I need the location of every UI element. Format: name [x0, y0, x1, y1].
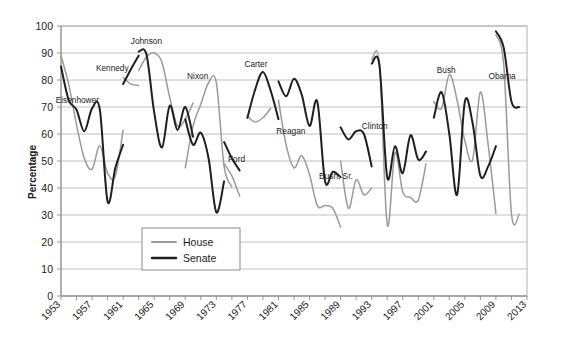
- series-line-house: [278, 100, 340, 227]
- y-tick-label: 60: [41, 128, 53, 140]
- chart-root: Percentage 01020304050607080901001953195…: [0, 0, 561, 343]
- series-line-house: [496, 35, 519, 225]
- series-line-senate: [139, 49, 193, 147]
- president-annotation: Johnson: [131, 36, 163, 46]
- series-line-senate: [61, 67, 123, 204]
- y-tick-label: 30: [41, 209, 53, 221]
- president-annotation: Eisenhower: [56, 95, 100, 105]
- x-tick-label: 1985: [287, 298, 311, 322]
- legend-label-senate: Senate: [183, 252, 216, 264]
- y-tick-label: 40: [41, 182, 53, 194]
- x-tick-label: 1965: [132, 298, 156, 322]
- x-tick-label: 1993: [350, 298, 374, 322]
- series-line-house: [139, 53, 193, 127]
- x-tick-label: 1961: [101, 298, 125, 322]
- x-tick-label: 2001: [412, 298, 436, 322]
- y-tick-label: 20: [41, 236, 53, 248]
- series-line-senate: [341, 127, 372, 166]
- y-tick-label: 70: [41, 101, 53, 113]
- series-line-house: [247, 108, 270, 122]
- x-tick-label: 1969: [163, 298, 187, 322]
- president-annotation: Bush: [437, 65, 456, 75]
- president-annotation: Reagan: [276, 126, 305, 136]
- chart-canvas: 0102030405060708090100195319571961196519…: [0, 0, 561, 343]
- president-annotation: Obama: [489, 71, 517, 81]
- y-tick-label: 90: [41, 47, 53, 59]
- president-annotation: Kennedy: [96, 63, 130, 73]
- x-tick-label: 2013: [505, 298, 529, 322]
- president-annotation: Clinton: [362, 121, 388, 131]
- series-line-house: [341, 161, 372, 208]
- x-tick-label: 1977: [225, 298, 249, 322]
- x-tick-label: 1953: [39, 298, 63, 322]
- y-tick-label: 80: [41, 74, 53, 86]
- president-annotation: Bush, Sr.: [319, 171, 353, 181]
- legend-label-house: House: [183, 236, 214, 248]
- x-tick-label: 1997: [381, 298, 405, 322]
- y-tick-label: 50: [41, 155, 53, 167]
- x-tick-label: 1981: [256, 298, 280, 322]
- y-tick-label: 10: [41, 263, 53, 275]
- x-tick-label: 2005: [443, 298, 467, 322]
- x-tick-label: 1989: [319, 298, 343, 322]
- series-line-senate: [247, 72, 278, 119]
- president-annotation: Ford: [228, 154, 245, 164]
- x-tick-label: 1973: [194, 298, 218, 322]
- x-tick-label: 1957: [70, 298, 94, 322]
- x-tick-label: 2009: [474, 298, 498, 322]
- president-annotation: Nixon: [187, 71, 209, 81]
- president-annotation: Carter: [244, 59, 267, 69]
- y-tick-label: 100: [35, 20, 53, 32]
